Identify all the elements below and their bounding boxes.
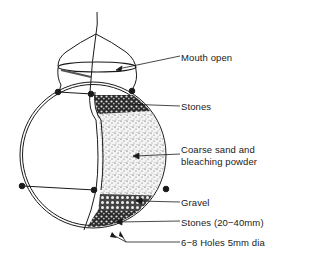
label-stones-bottom: Stones (20−40mm) (181, 217, 264, 228)
label-stones-top: Stones (181, 101, 211, 112)
label-mouth-open: Mouth open (181, 52, 232, 63)
label-holes: 6−8 Holes 5mm dia (181, 237, 265, 248)
label-sand-line1: Coarse sand and (181, 144, 255, 155)
hanging-rope (58, 12, 136, 92)
label-sand-line2: bleaching powder (181, 156, 257, 167)
label-gravel: Gravel (181, 197, 210, 208)
